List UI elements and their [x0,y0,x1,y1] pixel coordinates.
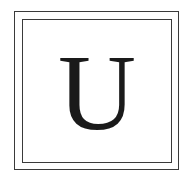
inner-frame: U [22,19,172,163]
monogram-letter: U [58,39,136,147]
